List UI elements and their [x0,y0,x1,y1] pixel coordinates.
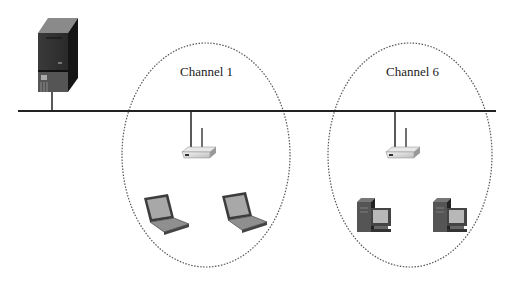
server-icon [38,18,78,92]
channel-6-label: Channel 6 [386,64,439,80]
desktop-computer-icon [433,198,467,232]
desktop-computer-icon [357,198,391,232]
laptop-icon [222,192,267,233]
network-diagram [0,0,509,284]
access-point-icon [182,128,216,158]
channel-1-label: Channel 1 [180,64,233,80]
laptop-icon [144,194,189,235]
access-point-icon [386,128,420,158]
